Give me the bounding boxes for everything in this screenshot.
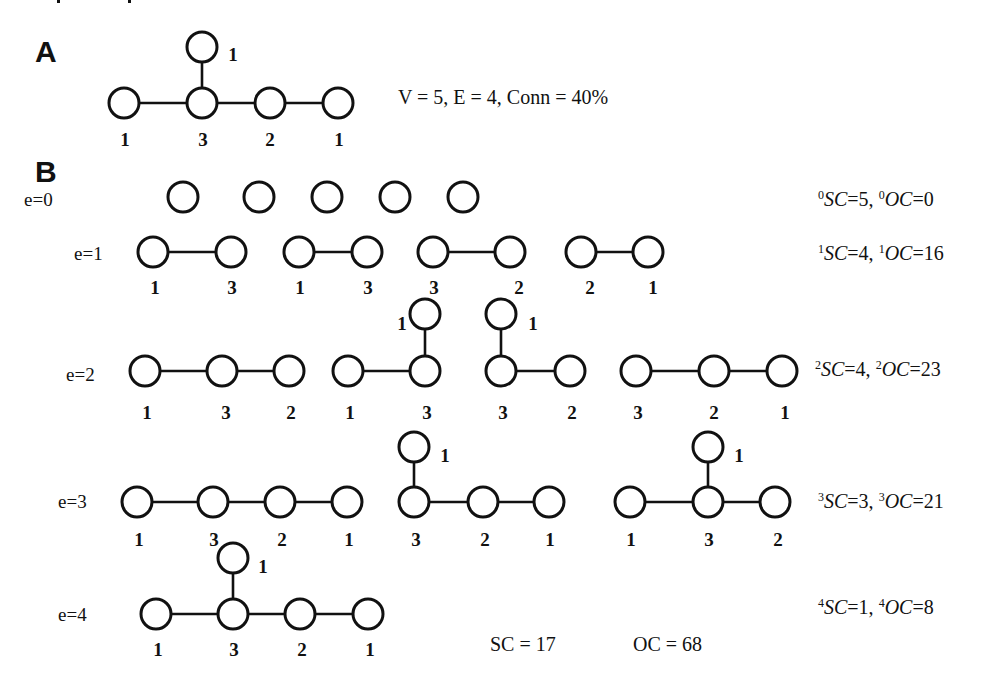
graph-node <box>138 237 168 267</box>
node-degree-label: 2 <box>277 529 287 550</box>
graph-node <box>218 543 248 573</box>
node-degree-label: 2 <box>297 639 307 660</box>
subgraph: 32 <box>418 237 525 298</box>
graph-node <box>352 237 382 267</box>
graph-node <box>122 487 152 517</box>
panel-a-letter: A <box>35 35 57 68</box>
graph-node <box>168 182 198 212</box>
row-stats: 2SC=4, 2OC=23 <box>815 358 941 380</box>
row-label: e=2 <box>66 364 95 385</box>
edge-count-row-3: e=31321321113213SC=3, 3OC=21 <box>58 432 944 550</box>
graph-node <box>410 299 440 329</box>
graph-node <box>274 356 304 386</box>
subgraph: 13211 <box>141 543 383 660</box>
subgraph: 21 <box>566 237 663 298</box>
graph-node <box>216 237 246 267</box>
panel-b: B e=00SC=5, 0OC=0e=1131332211SC=4, 1OC=1… <box>24 155 944 660</box>
node-degree-label: 3 <box>422 402 432 423</box>
graph-node <box>468 487 498 517</box>
graph-node <box>699 356 729 386</box>
graph-node <box>187 32 217 62</box>
graph-node <box>218 599 248 629</box>
node-degree-label: 1 <box>120 129 130 150</box>
total-oc: OC = 68 <box>633 633 702 655</box>
graph-node <box>693 487 723 517</box>
panel-a: A 13211 V = 5, E = 4, Conn = 40% <box>35 32 608 150</box>
node-degree-label: 1 <box>734 445 744 466</box>
graph-node <box>284 237 314 267</box>
subgraph: 1321 <box>615 432 790 550</box>
node-degree-label: 1 <box>153 639 163 660</box>
node-degree-label: 2 <box>514 277 524 298</box>
node-degree-label: 1 <box>150 277 160 298</box>
node-degree-label: 1 <box>440 445 450 466</box>
graph-node <box>109 88 139 118</box>
panel-a-graph: 13211 <box>109 32 353 150</box>
graph-node <box>141 599 171 629</box>
node-degree-label: 2 <box>585 277 595 298</box>
node-degree-label: 1 <box>365 639 375 660</box>
edge-count-row-1: e=1131332211SC=4, 1OC=16 <box>74 237 944 298</box>
node-degree-label: 1 <box>345 402 355 423</box>
subgraph: 131 <box>333 299 440 423</box>
graph-node <box>410 356 440 386</box>
graph-node <box>621 356 651 386</box>
node-degree-label: 1 <box>780 402 790 423</box>
node-degree-label: 1 <box>134 529 144 550</box>
subgraph: 132 <box>130 356 304 423</box>
panel-a-summary: V = 5, E = 4, Conn = 40% <box>398 86 608 108</box>
subgraph: 13211 <box>109 32 353 150</box>
node-degree-label: 3 <box>429 277 439 298</box>
node-degree-label: 1 <box>295 277 305 298</box>
node-degree-label: 3 <box>498 402 508 423</box>
graph-node <box>495 237 525 267</box>
subgraph: 13 <box>284 237 382 298</box>
node-degree-label: 3 <box>209 529 219 550</box>
graph-node <box>566 237 596 267</box>
row-stats: 1SC=4, 1OC=16 <box>818 242 944 264</box>
node-degree-label: 2 <box>709 402 719 423</box>
node-degree-label: 2 <box>773 529 783 550</box>
node-degree-label: 1 <box>142 402 152 423</box>
subgraph <box>312 182 342 212</box>
panel-b-rows: e=00SC=5, 0OC=0e=1131332211SC=4, 1OC=16e… <box>24 182 944 660</box>
graph-node <box>486 356 516 386</box>
edge-count-row-0: e=00SC=5, 0OC=0 <box>24 182 934 212</box>
row-stats: 4SC=1, 4OC=8 <box>818 596 934 618</box>
graph-node <box>760 487 790 517</box>
graph-node <box>323 88 353 118</box>
node-degree-label: 1 <box>344 529 354 550</box>
node-degree-label: 2 <box>286 402 296 423</box>
row-label: e=0 <box>24 189 53 210</box>
subgraph: 1321 <box>122 487 362 550</box>
node-degree-label: 3 <box>221 402 231 423</box>
node-degree-label: 3 <box>229 639 239 660</box>
subgraph <box>448 182 478 212</box>
graph-node <box>615 487 645 517</box>
graph-node <box>285 599 315 629</box>
graph-node <box>130 356 160 386</box>
graph-node <box>380 182 410 212</box>
graph-node <box>312 182 342 212</box>
row-label: e=1 <box>74 243 103 264</box>
node-degree-label: 3 <box>227 277 237 298</box>
graph-node <box>244 182 274 212</box>
node-degree-label: 3 <box>411 529 421 550</box>
graph-node <box>207 356 237 386</box>
subgraph <box>168 182 198 212</box>
graph-node <box>333 356 363 386</box>
node-degree-label: 1 <box>626 529 636 550</box>
graph-node <box>633 237 663 267</box>
row-label: e=3 <box>58 491 87 512</box>
node-degree-label: 2 <box>480 529 490 550</box>
panel-b-letter: B <box>35 155 57 188</box>
node-degree-label: 1 <box>397 313 407 334</box>
node-degree-label: 3 <box>633 402 643 423</box>
subgraph: 3211 <box>399 432 564 550</box>
node-degree-label: 1 <box>545 529 555 550</box>
node-degree-label: 2 <box>265 129 275 150</box>
graph-node <box>399 432 429 462</box>
subgraph <box>380 182 410 212</box>
node-degree-label: 3 <box>198 129 208 150</box>
graph-node <box>448 182 478 212</box>
